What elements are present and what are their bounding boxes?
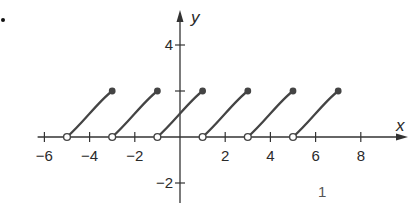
curve-segment [293, 91, 338, 137]
x-axis-label: x [395, 116, 405, 135]
curve-segment [67, 91, 112, 137]
y-tick-label: 4 [165, 36, 173, 53]
open-endpoint [244, 134, 251, 141]
open-endpoint [64, 134, 71, 141]
closed-endpoint [244, 88, 251, 95]
closed-endpoint [109, 88, 116, 95]
x-tick-label: 8 [357, 147, 365, 164]
bullet-dot [1, 18, 5, 22]
open-endpoint [199, 134, 206, 141]
curve-segment [112, 91, 157, 137]
x-tick-label: 2 [221, 147, 229, 164]
closed-endpoint [335, 88, 342, 95]
curve-segment [248, 91, 293, 137]
x-tick-label: −6 [36, 147, 53, 164]
closed-endpoint [154, 88, 161, 95]
open-endpoint [290, 134, 297, 141]
chart: −6−4−22468−24 x y 1 [0, 0, 417, 212]
closed-endpoint [199, 88, 206, 95]
x-tick-label: 4 [266, 147, 274, 164]
closed-endpoint [290, 88, 297, 95]
open-endpoint [154, 134, 161, 141]
y-axis-arrow [177, 10, 184, 22]
y-tick-label: −2 [156, 174, 173, 191]
x-tick-label: −2 [126, 147, 143, 164]
axes [38, 10, 408, 203]
y-axis-label: y [190, 8, 201, 27]
x-tick-label: −4 [81, 147, 98, 164]
curve-segment [203, 91, 248, 137]
open-endpoint [109, 134, 116, 141]
curves [64, 88, 342, 141]
page-marker: 1 [318, 183, 326, 200]
x-tick-label: 6 [311, 147, 319, 164]
